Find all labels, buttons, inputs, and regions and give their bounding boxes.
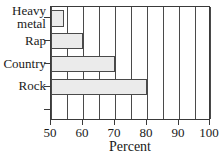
x-axis-tick-label-60: 60 <box>76 126 89 139</box>
x-axis-tick-label-70: 70 <box>108 126 121 139</box>
bar-country <box>51 56 115 72</box>
y-axis-label-country: Country <box>3 57 46 70</box>
bar-chart: Heavy metal Rap Country Rock 50607080901… <box>0 0 220 157</box>
bar-row <box>51 10 209 26</box>
y-axis-label-rap: Rap <box>25 34 46 47</box>
x-axis-tick-label-50: 50 <box>44 126 57 139</box>
x-axis-tick-label-90: 90 <box>172 126 185 139</box>
bar-row <box>51 56 209 72</box>
y-axis-labels: Heavy metal Rap Country Rock <box>0 6 48 120</box>
bar-rock <box>51 79 147 95</box>
y-axis-label-rock: Rock <box>19 79 46 92</box>
bars <box>51 7 209 119</box>
bar-row <box>51 79 209 95</box>
x-axis-title: Percent <box>50 140 210 154</box>
bar-heavy-metal <box>51 10 64 26</box>
y-axis-label-heavy-metal: Heavy metal <box>12 4 46 30</box>
x-axis-tick-label-100: 100 <box>199 126 219 139</box>
x-axis-tick-label-80: 80 <box>140 126 153 139</box>
bar-rap <box>51 33 83 49</box>
bar-row <box>51 33 209 49</box>
y-axis-label-heavy-metal-line2: metal <box>12 17 46 30</box>
plot-area <box>50 6 210 120</box>
gridline-100 <box>210 7 211 119</box>
